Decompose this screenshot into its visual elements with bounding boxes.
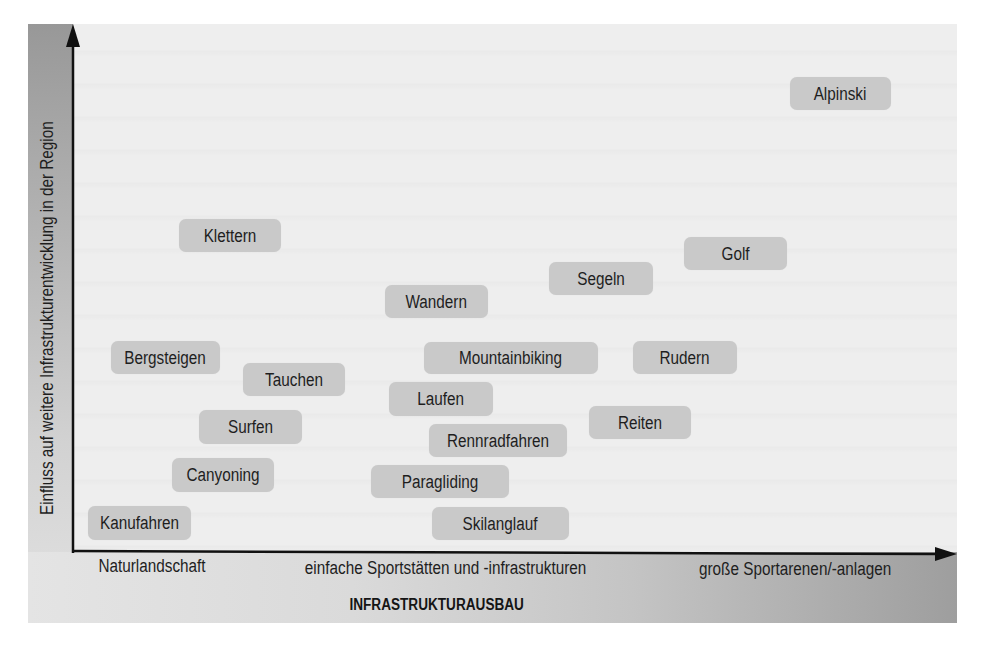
x-tick-einfache-sportstaetten: einfache Sportstätten und -infrastruktur… xyxy=(276,558,616,578)
x-tick-label: einfache Sportstätten und -infrastruktur… xyxy=(305,558,587,578)
sport-box-reiten: Reiten xyxy=(589,406,691,439)
sport-label: Wandern xyxy=(406,292,468,312)
sport-label: Laufen xyxy=(418,389,465,409)
sport-box-wandern: Wandern xyxy=(385,285,488,318)
sport-box-bergsteigen: Bergsteigen xyxy=(111,341,220,374)
sport-label: Alpinski xyxy=(814,84,867,104)
sport-label: Kanufahren xyxy=(100,513,179,533)
sport-box-rudern: Rudern xyxy=(633,341,737,374)
sport-label: Bergsteigen xyxy=(125,348,207,368)
sport-box-paragliding: Paragliding xyxy=(371,465,509,498)
sport-label: Segeln xyxy=(577,269,625,289)
sport-label: Mountainbiking xyxy=(460,348,563,368)
x-axis-title-text: INFRASTRUKTURAUSBAU xyxy=(350,595,525,615)
sport-box-golf: Golf xyxy=(684,237,787,270)
sport-label: Paragliding xyxy=(402,472,479,492)
sport-box-mountainbiking: Mountainbiking xyxy=(424,342,598,374)
sport-label: Canyoning xyxy=(186,465,259,485)
sport-label: Golf xyxy=(721,244,749,264)
sport-box-tauchen: Tauchen xyxy=(243,363,345,396)
sport-label: Klettern xyxy=(204,226,257,246)
sport-box-klettern: Klettern xyxy=(179,219,281,252)
sport-label: Tauchen xyxy=(265,370,323,390)
sport-label: Reiten xyxy=(618,413,662,433)
sport-box-segeln: Segeln xyxy=(549,262,653,295)
sport-label: Rennradfahren xyxy=(447,431,549,451)
sport-box-rennradfahren: Rennradfahren xyxy=(429,424,567,457)
sport-box-skilanglauf: Skilanglauf xyxy=(432,507,569,540)
x-tick-label: Naturlandschaft xyxy=(98,556,205,576)
sport-box-alpinski: Alpinski xyxy=(790,77,891,110)
sport-label: Skilanglauf xyxy=(463,514,538,534)
sport-label: Rudern xyxy=(660,348,710,368)
x-tick-label: große Sportarenen/-anlagen xyxy=(699,559,891,579)
sport-box-kanufahren: Kanufahren xyxy=(88,506,191,540)
y-axis-label: Einfluss auf weitere Infrastrukturentwic… xyxy=(37,141,57,515)
sport-label: Surfen xyxy=(228,417,273,437)
x-tick-naturlandschaft: Naturlandschaft xyxy=(72,556,232,576)
x-axis-title: INFRASTRUKTURAUSBAU xyxy=(327,595,547,615)
sport-box-laufen: Laufen xyxy=(389,382,493,416)
sport-box-surfen: Surfen xyxy=(199,410,302,444)
sport-box-canyoning: Canyoning xyxy=(172,458,274,492)
x-tick-grosse-sportarenen: große Sportarenen/-anlagen xyxy=(675,559,915,579)
